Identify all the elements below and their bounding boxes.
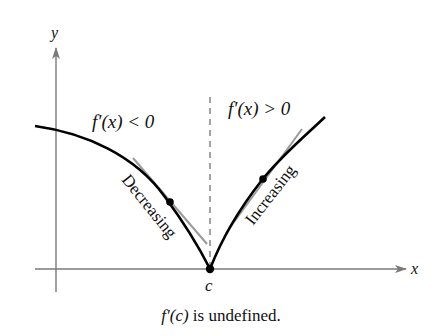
point-c-label: c — [205, 276, 213, 295]
y-axis-label: y — [49, 24, 59, 42]
point-on-right-branch — [259, 175, 267, 183]
cusp-point-c — [206, 265, 214, 273]
left-condition-label: f′(x) < 0 — [92, 111, 155, 133]
x-axis-label: x — [410, 260, 418, 277]
right-condition-label: f′(x) > 0 — [228, 98, 291, 120]
figure-caption: f′(c) is undefined. — [0, 306, 442, 326]
caption-function: f′(c) — [161, 306, 188, 325]
derivative-cusp-diagram: y x c f′(x) < 0 f′(x) > 0 Decreasing Inc… — [0, 0, 442, 336]
curve-left-decreasing — [35, 126, 210, 269]
caption-text: is undefined. — [189, 306, 281, 325]
point-on-left-branch — [166, 198, 174, 206]
